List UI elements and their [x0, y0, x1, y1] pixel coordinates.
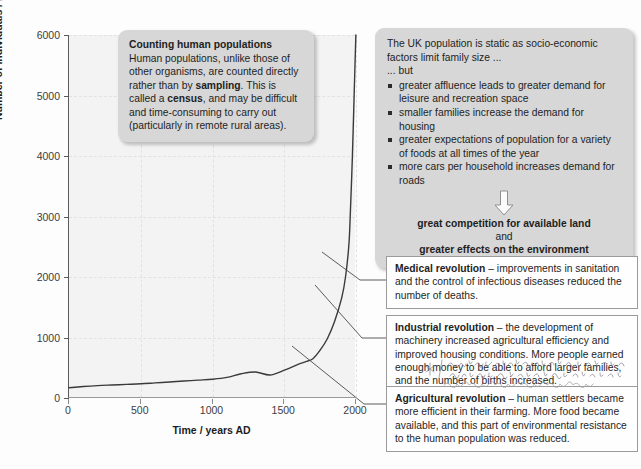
x-tick-label: 500	[115, 404, 165, 416]
uk-bullet-list: greater affluence leads to greater deman…	[387, 79, 621, 188]
callout-uk-population: The UK population is static as socio-eco…	[375, 28, 633, 268]
bullet-square-icon	[388, 84, 392, 88]
box-medical-revolution: Medical revolution – improvements in san…	[386, 256, 638, 309]
x-axis-label: Time / years AD	[68, 424, 355, 436]
uk-bullet-text: more cars per household increases demand…	[399, 161, 615, 186]
box-agricultural-revolution: Agricultural revolution – human settlers…	[386, 386, 638, 452]
box-industrial-title: Industrial revolution	[395, 322, 494, 333]
uk-bullet-item: smaller families increase the demand for…	[387, 106, 621, 133]
y-tick-mark	[64, 217, 69, 218]
x-tick-label: 1500	[258, 404, 308, 416]
uk-bullet-text: smaller families increase the demand for…	[399, 107, 584, 132]
down-arrow-icon	[387, 190, 621, 216]
uk-bullet-item: more cars per household increases demand…	[387, 160, 621, 187]
uk-lead-line-2: ... but	[387, 64, 621, 78]
y-axis-label: Number of individuals / millions	[0, 0, 4, 120]
uk-conclusion: great competition for available land and…	[387, 217, 621, 257]
callout-census-title: Counting human populations	[129, 38, 303, 51]
y-tick-mark	[64, 96, 69, 97]
y-tick-label: 1000	[12, 332, 60, 344]
y-tick-mark	[64, 338, 69, 339]
y-tick-mark	[64, 277, 69, 278]
y-tick-label: 4000	[12, 150, 60, 162]
bullet-square-icon	[388, 138, 392, 142]
y-tick-mark	[64, 35, 69, 36]
x-tick-mark	[68, 399, 69, 404]
x-tick-mark	[355, 399, 356, 404]
uk-conclusion-join: and	[387, 230, 621, 243]
box-agricultural-title: Agricultural revolution	[395, 393, 505, 404]
y-tick-mark	[64, 156, 69, 157]
population-graph-figure: 0100020003000400050006000 05001000150020…	[0, 0, 641, 469]
gridline-vertical	[356, 35, 357, 397]
y-tick-label: 3000	[12, 211, 60, 223]
x-tick-mark	[283, 399, 284, 404]
uk-conclusion-1: great competition for available land	[387, 217, 621, 230]
box-medical-title: Medical revolution	[395, 263, 485, 274]
bullet-square-icon	[388, 111, 392, 115]
uk-bullet-text: greater expectations of population for a…	[399, 134, 611, 159]
x-tick-mark	[212, 399, 213, 404]
y-tick-label: 6000	[12, 29, 60, 41]
uk-bullet-text: greater affluence leads to greater deman…	[399, 80, 605, 105]
uk-bullet-item: greater expectations of population for a…	[387, 133, 621, 160]
callout-counting-human-populations: Counting human populations Human populat…	[118, 30, 314, 142]
x-tick-label: 2000	[330, 404, 380, 416]
bullet-square-icon	[388, 165, 392, 169]
callout-census-body: Human populations, unlike those of other…	[129, 53, 298, 131]
x-tick-mark	[140, 399, 141, 404]
uk-bullet-item: greater affluence leads to greater deman…	[387, 79, 621, 106]
uk-conclusion-2: greater effects on the environment	[387, 243, 621, 256]
y-tick-label: 2000	[12, 271, 60, 283]
box-industrial-revolution: Industrial revolution – the development …	[386, 315, 638, 394]
x-tick-label: 0	[43, 404, 93, 416]
x-tick-label: 1000	[187, 404, 237, 416]
y-tick-label: 0	[12, 392, 60, 404]
uk-lead-line-1: The UK population is static as socio-eco…	[387, 37, 621, 64]
y-tick-label: 5000	[12, 90, 60, 102]
